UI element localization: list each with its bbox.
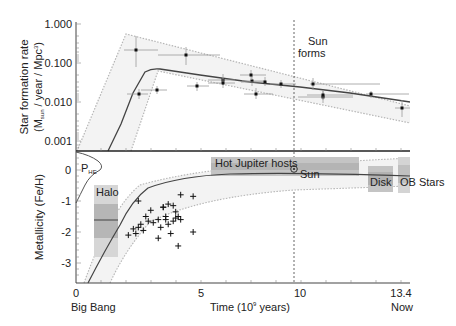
- halo-star-marker: [190, 229, 196, 235]
- bottom-ytick-label: -3: [61, 257, 71, 269]
- top-panel: 1.000 0.100 0.010 0.001 Star formation r…: [18, 18, 410, 151]
- bottom-y-axis-label: Metallicity (Fe/H): [33, 174, 45, 260]
- sfr-envelope-fill: [77, 34, 410, 151]
- top-ytick-label: 0.001: [44, 135, 72, 147]
- halo-label: Halo: [96, 186, 119, 198]
- hot-jupiter-label: Hot Jupiter hosts: [215, 157, 298, 169]
- chart-svg: 1.000 0.100 0.010 0.001 Star formation r…: [0, 0, 456, 326]
- disk-label: Disk: [370, 176, 392, 188]
- halo-star-marker: [168, 231, 174, 237]
- xtick-label: 13.4: [390, 287, 411, 299]
- bottom-y-ticks: [76, 158, 81, 275]
- ob-stars-label: OB Stars: [400, 176, 445, 188]
- x-axis-label: Time (109 years): [210, 301, 290, 313]
- metallicity-envelope-fill: [84, 158, 410, 283]
- region-halo-core: [94, 204, 118, 238]
- bottom-panel: Hot Jupiter hosts Disk OB Stars Halo PHE…: [33, 151, 445, 283]
- halo-star-marker: [175, 243, 181, 249]
- bottom-ytick-label: -1: [61, 195, 71, 207]
- x-now-label: Now: [391, 301, 413, 313]
- sfr-label-line2: (Msun / year / Mpc3): [32, 42, 45, 132]
- bottom-ytick-label: 0: [65, 164, 71, 176]
- x-big-bang-label: Big Bang: [71, 301, 116, 313]
- sfr-label-line1: Star formation rate: [18, 39, 30, 134]
- top-ytick-label: 0.100: [44, 57, 72, 69]
- metallicity-label: Metallicity (Fe/H): [33, 174, 45, 260]
- top-ytick-label: 0.010: [44, 96, 72, 108]
- bottom-ytick-label: -2: [61, 226, 71, 238]
- xtick-label: 5: [198, 287, 204, 299]
- sun-symbol-dot: [293, 168, 295, 170]
- halo-star-marker: [155, 235, 161, 241]
- sun-label: Sun: [300, 168, 320, 180]
- top-y-axis-label: Star formation rate (Msun / year / Mpc3): [18, 39, 45, 134]
- top-y-minor-ticks: [76, 24, 81, 148]
- halo-star-marker: [158, 224, 164, 230]
- xtick-label: 0: [73, 287, 79, 299]
- sun-forms-label-line2: forms: [298, 47, 326, 59]
- sun-forms-label-line1: Sun: [308, 35, 328, 47]
- top-ytick-label: 1.000: [44, 18, 72, 30]
- phe-label: PHE: [81, 162, 97, 175]
- xtick-label: 10: [294, 287, 306, 299]
- data-point: [187, 82, 209, 91]
